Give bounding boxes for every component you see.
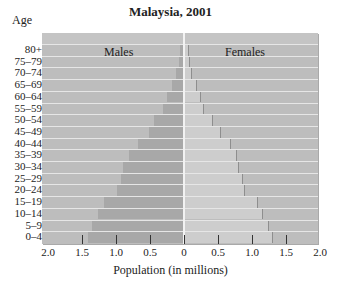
pyramid-row xyxy=(42,126,318,138)
age-group-label: 75–79 xyxy=(15,55,43,67)
male-bar xyxy=(163,104,183,115)
legend-males: Males xyxy=(104,45,133,60)
pyramid-row xyxy=(42,138,318,150)
x-tick xyxy=(116,235,117,244)
pyramid-row xyxy=(42,56,318,68)
male-bar xyxy=(88,232,183,243)
x-tick xyxy=(252,235,253,244)
x-tick-label: 2.0 xyxy=(33,246,63,258)
x-axis-label: Population (in millions) xyxy=(0,263,341,278)
x-tick xyxy=(150,235,151,244)
female-bar xyxy=(185,185,245,196)
female-bar xyxy=(185,68,192,79)
x-tick xyxy=(82,235,83,244)
age-group-label: 50–54 xyxy=(15,113,43,125)
male-bar xyxy=(123,162,183,173)
plot-header-strip xyxy=(42,33,318,44)
chart-title: Malaysia, 2001 xyxy=(0,4,341,20)
age-group-label: 40–44 xyxy=(15,137,43,149)
age-group-label: 30–34 xyxy=(15,160,43,172)
female-bar xyxy=(185,115,213,126)
male-bar xyxy=(121,174,183,185)
female-bar xyxy=(185,150,237,161)
female-bar xyxy=(185,197,258,208)
pyramid-row xyxy=(42,44,318,56)
male-bar xyxy=(167,92,183,103)
age-group-label: 45–49 xyxy=(15,125,43,137)
age-group-label: 60–64 xyxy=(15,90,43,102)
y-axis-label: Age xyxy=(12,13,32,28)
female-bar xyxy=(185,80,197,91)
female-bar xyxy=(185,162,239,173)
age-group-label: 25–29 xyxy=(15,172,43,184)
pyramid-row xyxy=(42,196,318,208)
male-bar xyxy=(129,150,183,161)
x-tick-label: 0.5 xyxy=(135,246,165,258)
x-tick-label: 0 xyxy=(169,246,199,258)
age-group-label: 0–4 xyxy=(26,230,43,242)
age-group-label: 80+ xyxy=(25,43,42,55)
male-bar xyxy=(172,80,183,91)
age-group-label: 35–39 xyxy=(15,148,43,160)
male-bar xyxy=(154,115,183,126)
male-bar xyxy=(104,197,183,208)
age-group-label: 55–59 xyxy=(15,102,43,114)
pyramid-row xyxy=(42,114,318,126)
male-bar xyxy=(176,68,183,79)
x-tick-label: 0.5 xyxy=(203,246,233,258)
female-bar xyxy=(185,92,201,103)
x-tick-label: 1.5 xyxy=(67,246,97,258)
pyramid-row xyxy=(42,161,318,173)
pyramid-row xyxy=(42,173,318,185)
pyramid-row xyxy=(42,149,318,161)
age-group-label: 5–9 xyxy=(26,219,43,231)
x-tick xyxy=(218,235,219,244)
female-bar xyxy=(185,127,221,138)
female-bar xyxy=(185,232,273,243)
pyramid-row xyxy=(42,231,318,243)
x-tick-label: 1.5 xyxy=(271,246,301,258)
female-bar xyxy=(185,174,243,185)
legend-females: Females xyxy=(225,45,265,60)
center-line xyxy=(183,33,185,244)
pyramid-row xyxy=(42,184,318,196)
male-bar xyxy=(149,127,183,138)
pyramid-row xyxy=(42,91,318,103)
age-group-label: 65–69 xyxy=(15,78,43,90)
pyramid-row xyxy=(42,79,318,91)
female-bar xyxy=(185,139,231,150)
male-bar xyxy=(92,221,183,232)
x-tick-label: 1.0 xyxy=(101,246,131,258)
pyramid-row xyxy=(42,220,318,232)
x-tick xyxy=(184,235,185,244)
pyramid-row xyxy=(42,67,318,79)
pyramid-row xyxy=(42,103,318,115)
male-bar xyxy=(98,209,183,220)
x-tick-label: 2.0 xyxy=(305,246,335,258)
male-bar xyxy=(117,185,183,196)
x-tick xyxy=(286,235,287,244)
x-tick-label: 1.0 xyxy=(237,246,267,258)
female-bar xyxy=(185,221,269,232)
age-group-label: 15–19 xyxy=(15,195,43,207)
female-bar xyxy=(185,209,263,220)
female-bar xyxy=(185,104,204,115)
age-group-label: 20–24 xyxy=(15,183,43,195)
female-bar xyxy=(185,45,189,56)
age-group-label: 10–14 xyxy=(15,207,43,219)
male-bar xyxy=(138,139,183,150)
female-bar xyxy=(185,57,190,68)
plot-area: Males Females xyxy=(42,33,318,244)
pyramid-row xyxy=(42,208,318,220)
age-group-label: 70–74 xyxy=(15,66,43,78)
